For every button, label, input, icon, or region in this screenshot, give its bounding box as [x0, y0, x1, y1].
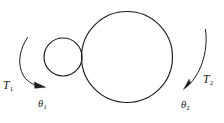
torque-label-T2-symbol: T [203, 73, 209, 85]
large-disc [82, 12, 173, 103]
left-torque-arc [20, 38, 42, 87]
torque-label-T1-subscript: 1 [10, 85, 14, 93]
angle-label-theta2: θ2 [181, 100, 189, 111]
angle-label-theta1-subscript: 1 [43, 103, 46, 110]
figure-vector-graphic [0, 0, 224, 123]
angle-label-theta2-subscript: 2 [186, 104, 189, 111]
torque-label-T1-symbol: T [3, 79, 9, 91]
left-torque-arrowhead [35, 82, 46, 88]
figure-canvas: T1 T2 θ1 θ2 [0, 0, 224, 123]
torque-label-T1: T1 [3, 80, 13, 92]
torque-label-T2-subscript: 2 [210, 79, 214, 87]
angle-label-theta1: θ1 [38, 99, 46, 110]
small-disc [44, 38, 82, 76]
torque-label-T2: T2 [203, 74, 213, 86]
